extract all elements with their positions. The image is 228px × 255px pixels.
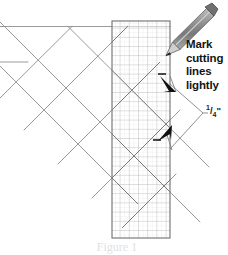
quilting-diagram: Mark cutting lines lightly 1/4" Figure 1 xyxy=(0,0,228,255)
fabric-diag-d xyxy=(0,27,72,103)
figure-caption: Figure 1 xyxy=(62,240,172,255)
ruler-grid xyxy=(112,21,170,238)
callout-line-1: Mark xyxy=(186,38,228,52)
callout-line-3: lines xyxy=(186,65,228,79)
quilting-ruler xyxy=(112,21,170,238)
callout-line-4: lightly xyxy=(186,79,228,93)
leader-triangle xyxy=(170,84,203,149)
callout-mark-cutting-lines: Mark cutting lines lightly xyxy=(186,38,228,92)
measurement-unit: " xyxy=(216,105,221,116)
measurement-label: 1/4" xyxy=(206,104,221,118)
callout-line-2: cutting xyxy=(186,52,228,66)
fraction-quarter-inch: 1/4 xyxy=(206,104,216,118)
fraction-denominator: 4 xyxy=(213,111,217,118)
